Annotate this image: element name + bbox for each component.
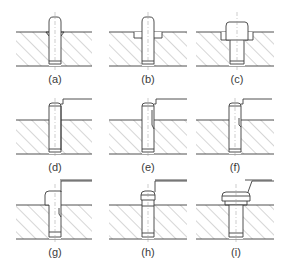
panel-a bbox=[16, 12, 92, 70]
label-b: (b) bbox=[128, 73, 168, 85]
label-c: (c) bbox=[217, 73, 257, 85]
label-d: (d) bbox=[35, 161, 75, 173]
panel-c bbox=[196, 12, 274, 70]
label-a: (a) bbox=[35, 73, 75, 85]
panel-i bbox=[196, 181, 274, 243]
panel-g bbox=[16, 181, 92, 243]
label-e: (e) bbox=[128, 161, 168, 173]
label-f: (f) bbox=[215, 161, 255, 173]
pin-fit-diagram bbox=[0, 0, 286, 273]
panel-b bbox=[109, 12, 187, 70]
label-g: (g) bbox=[35, 246, 75, 258]
label-i: (i) bbox=[216, 246, 256, 258]
label-h: (h) bbox=[128, 246, 168, 258]
panel-h bbox=[109, 181, 187, 243]
